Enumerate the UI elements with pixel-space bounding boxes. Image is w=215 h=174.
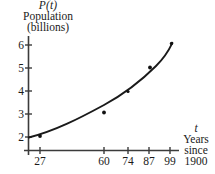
population-curve: [29, 43, 173, 138]
data-point-1960: [102, 111, 106, 115]
data-point-1987: [148, 66, 152, 70]
data-point-1927: [38, 134, 42, 138]
data-point-1974: [126, 90, 129, 93]
data-points: [38, 42, 173, 138]
population-growth-chart: P(t) Population (billions) t Years since…: [0, 0, 215, 174]
axes-group: [24, 36, 179, 155]
data-point-1999: [170, 42, 173, 45]
plot-area: [0, 0, 215, 174]
